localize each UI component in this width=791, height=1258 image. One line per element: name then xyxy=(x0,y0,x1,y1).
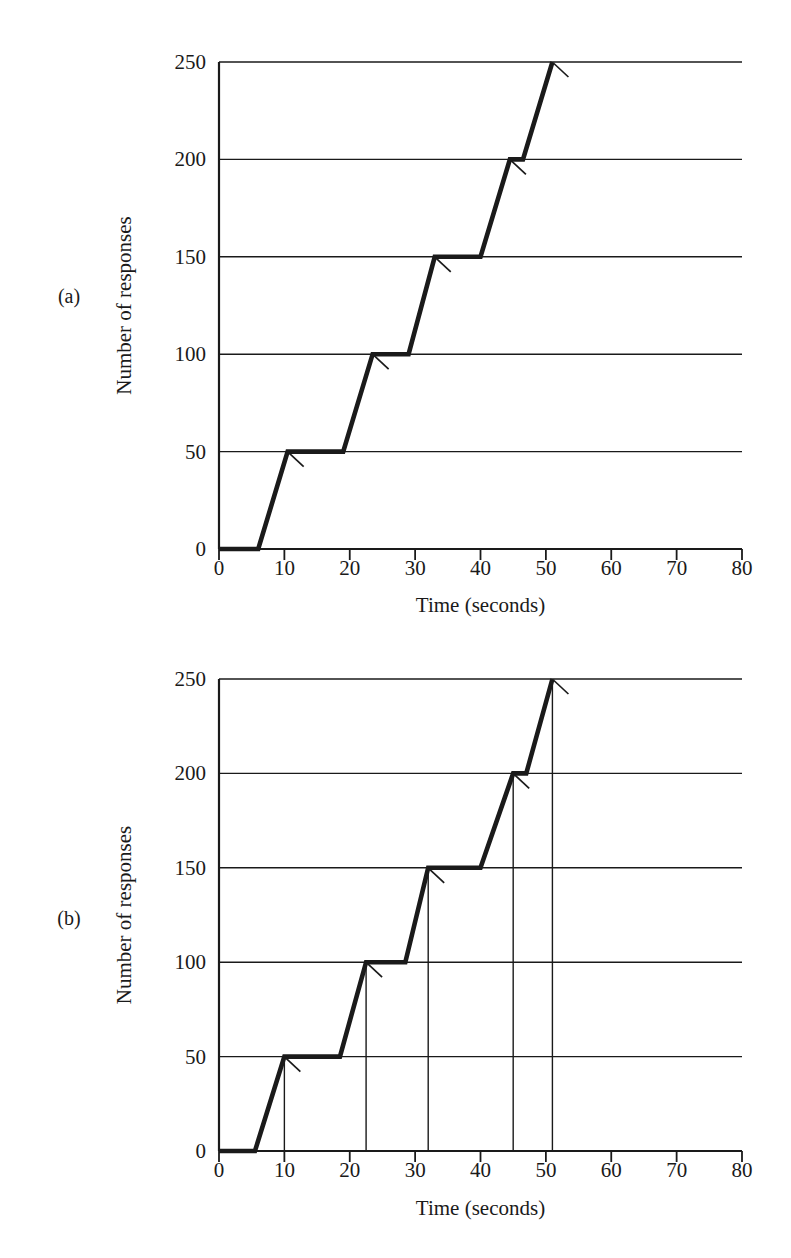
x-tick-label: 20 xyxy=(339,556,360,580)
reinforcement-tick xyxy=(430,869,445,883)
y-ticks: 050100150200250 xyxy=(175,667,207,1163)
y-tick-label: 150 xyxy=(175,856,207,880)
x-tick-label: 70 xyxy=(666,1158,687,1182)
y-tick-label: 50 xyxy=(185,440,206,464)
cumulative-response-line xyxy=(219,679,552,1151)
y-tick-label: 0 xyxy=(196,537,207,561)
x-tick-label: 80 xyxy=(732,1158,753,1182)
reinforcement-tick xyxy=(515,775,530,789)
y-tick-label: 100 xyxy=(175,950,207,974)
x-tick-label: 70 xyxy=(666,556,687,580)
reinforcement-tick xyxy=(554,681,569,695)
x-tick-label: 40 xyxy=(470,1158,491,1182)
y-axis-title: Number of responses xyxy=(112,826,136,1004)
x-ticks: 01020304050607080 xyxy=(214,1151,753,1182)
x-tick-label: 50 xyxy=(535,1158,556,1182)
axes xyxy=(219,679,742,1151)
x-tick-label: 60 xyxy=(601,556,622,580)
x-tick-label: 10 xyxy=(274,556,295,580)
y-axis-title: Number of responses xyxy=(112,216,136,394)
reinforcement-marks xyxy=(289,64,568,467)
reinforcement-tick xyxy=(554,64,569,78)
x-tick-label: 80 xyxy=(732,556,753,580)
x-tick-label: 0 xyxy=(214,1158,225,1182)
y-tick-label: 150 xyxy=(175,245,207,269)
panel-b: (b) 01020304050607080050100150200250Time… xyxy=(0,618,791,1258)
y-tick-label: 0 xyxy=(196,1139,207,1163)
reinforcement-tick xyxy=(289,453,304,467)
chart-b-plot: 01020304050607080050100150200250Time (se… xyxy=(0,618,791,1258)
cumulative-record-figure: (a) 01020304050607080050100150200250Time… xyxy=(0,0,791,1258)
x-tick-label: 30 xyxy=(405,1158,426,1182)
x-tick-label: 0 xyxy=(214,556,225,580)
x-ticks: 01020304050607080 xyxy=(214,549,753,580)
x-tick-label: 10 xyxy=(274,1158,295,1182)
y-tick-label: 50 xyxy=(185,1045,206,1069)
x-axis-title: Time (seconds) xyxy=(416,593,545,617)
panel-a: (a) 01020304050607080050100150200250Time… xyxy=(0,0,791,640)
reinforcement-tick xyxy=(368,964,383,978)
reinforcement-tick xyxy=(436,258,451,272)
x-tick-label: 20 xyxy=(339,1158,360,1182)
x-tick-label: 40 xyxy=(470,556,491,580)
x-tick-label: 30 xyxy=(405,556,426,580)
y-tick-label: 250 xyxy=(175,667,207,691)
axes xyxy=(219,62,742,549)
y-ticks: 050100150200250 xyxy=(175,50,207,561)
y-tick-label: 200 xyxy=(175,147,207,171)
reinforcement-tick xyxy=(374,356,389,370)
x-tick-label: 60 xyxy=(601,1158,622,1182)
y-tick-label: 250 xyxy=(175,50,207,74)
reinforcement-tick xyxy=(286,1058,301,1072)
y-tick-label: 100 xyxy=(175,342,207,366)
chart-a-plot: 01020304050607080050100150200250Time (se… xyxy=(0,0,791,640)
reinforcement-tick xyxy=(511,161,526,175)
x-axis-title: Time (seconds) xyxy=(416,1196,545,1220)
y-tick-label: 200 xyxy=(175,761,207,785)
cumulative-response-line xyxy=(219,62,552,549)
x-tick-label: 50 xyxy=(535,556,556,580)
